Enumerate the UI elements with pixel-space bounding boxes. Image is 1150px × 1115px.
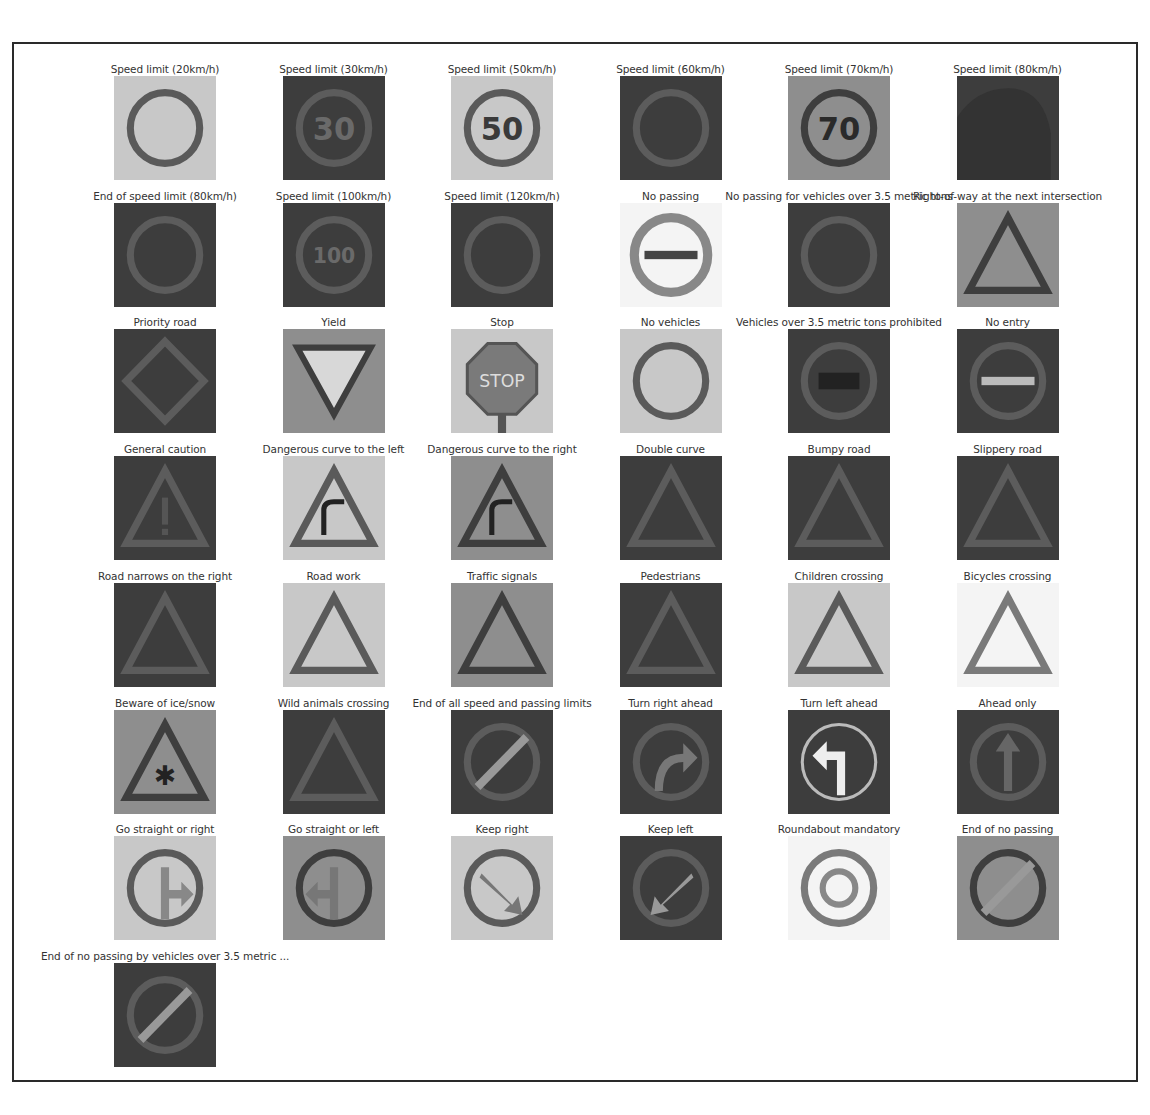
sign-sample-image: 50 (451, 76, 553, 180)
sign-sample-image (620, 329, 722, 433)
sign-sample-cell: Beware of ice/snow✱ (81, 697, 249, 824)
sign-class-caption: Right-of-way at the next intersection (884, 190, 1132, 202)
traffic-sign-icon (620, 710, 722, 814)
traffic-sign-icon: 100 (283, 203, 385, 307)
svg-text:100: 100 (312, 244, 355, 268)
sign-sample-image (283, 456, 385, 560)
sign-sample-cell: Dangerous curve to the right (418, 443, 586, 570)
traffic-sign-icon (283, 329, 385, 433)
sign-sample-cell: General caution (81, 443, 249, 570)
sign-sample-cell: Double curve (587, 443, 755, 570)
sign-sample-image (283, 710, 385, 814)
sign-sample-cell: End of speed limit (80km/h) (81, 190, 249, 317)
traffic-sign-icon (788, 203, 890, 307)
traffic-sign-icon (451, 456, 553, 560)
sign-sample-cell: Speed limit (70km/h)70 (755, 63, 923, 190)
traffic-sign-icon (283, 710, 385, 814)
sign-sample-cell: Speed limit (50km/h)50 (418, 63, 586, 190)
traffic-sign-icon (283, 836, 385, 940)
sign-sample-image: 100 (283, 203, 385, 307)
sign-sample-cell: Go straight or left (250, 823, 418, 950)
traffic-sign-icon (283, 456, 385, 560)
sign-sample-image (957, 583, 1059, 687)
traffic-sign-icon (620, 203, 722, 307)
sign-sample-image (957, 76, 1059, 180)
svg-text:STOP: STOP (479, 371, 525, 391)
svg-text:✱: ✱ (154, 759, 176, 790)
sign-sample-cell: Speed limit (60km/h) (587, 63, 755, 190)
sign-sample-cell: End of all speed and passing limits (418, 697, 586, 824)
traffic-sign-icon (451, 583, 553, 687)
sign-sample-cell: End of no passing by vehicles over 3.5 m… (81, 950, 249, 1077)
traffic-sign-icon (957, 329, 1059, 433)
sign-sample-image (451, 456, 553, 560)
traffic-sign-icon (957, 836, 1059, 940)
sign-sample-image: 70 (788, 76, 890, 180)
traffic-sign-icon (283, 583, 385, 687)
sign-sample-cell: Dangerous curve to the left (250, 443, 418, 570)
traffic-sign-icon (114, 76, 216, 180)
sign-sample-image: STOP (451, 329, 553, 433)
traffic-sign-icon (620, 76, 722, 180)
sign-sample-image (114, 963, 216, 1067)
sign-sample-cell: No passing for vehicles over 3.5 metric … (755, 190, 923, 317)
sign-sample-cell: Keep left (587, 823, 755, 950)
sign-sample-cell: Turn right ahead (587, 697, 755, 824)
sign-sample-cell: Wild animals crossing (250, 697, 418, 824)
sign-sample-image (620, 710, 722, 814)
sign-sample-image (283, 836, 385, 940)
sign-class-caption: Ahead only (884, 697, 1132, 709)
sign-sample-image (788, 203, 890, 307)
traffic-sign-icon (114, 963, 216, 1067)
sign-sample-cell: Speed limit (80km/h) (924, 63, 1092, 190)
svg-text:70: 70 (818, 111, 861, 147)
traffic-sign-icon (788, 583, 890, 687)
traffic-sign-icon (957, 76, 1059, 180)
sign-sample-image (620, 76, 722, 180)
sign-class-caption: End of no passing (884, 823, 1132, 835)
sign-sample-cell: End of no passing (924, 823, 1092, 950)
sign-sample-image (788, 329, 890, 433)
traffic-sign-icon: 30 (283, 76, 385, 180)
sign-sample-cell: No vehicles (587, 316, 755, 443)
sign-sample-cell: Speed limit (30km/h)30 (250, 63, 418, 190)
traffic-sign-icon (620, 836, 722, 940)
traffic-sign-icon (957, 203, 1059, 307)
sign-sample-image (114, 836, 216, 940)
sign-sample-cell: StopSTOP (418, 316, 586, 443)
sign-class-caption: End of no passing by vehicles over 3.5 m… (41, 950, 289, 962)
sign-sample-cell: Speed limit (120km/h) (418, 190, 586, 317)
traffic-sign-icon (788, 836, 890, 940)
sign-sample-cell: Right-of-way at the next intersection (924, 190, 1092, 317)
sign-sample-image (620, 583, 722, 687)
traffic-sign-icon (114, 203, 216, 307)
sign-sample-image (957, 456, 1059, 560)
traffic-sign-icon (451, 710, 553, 814)
traffic-sign-icon (114, 456, 216, 560)
traffic-sign-icon: 50 (451, 76, 553, 180)
traffic-sign-icon (114, 329, 216, 433)
sign-sample-image (283, 583, 385, 687)
traffic-sign-icon (451, 203, 553, 307)
sign-sample-cell: Ahead only (924, 697, 1092, 824)
sign-sample-image (451, 836, 553, 940)
traffic-sign-icon: 70 (788, 76, 890, 180)
sign-sample-image (114, 203, 216, 307)
sign-sample-image (451, 203, 553, 307)
sign-sample-image (620, 836, 722, 940)
sign-sample-image (114, 583, 216, 687)
traffic-sign-icon: ✱ (114, 710, 216, 814)
traffic-sign-icon (788, 329, 890, 433)
sign-sample-image (114, 456, 216, 560)
sign-sample-image (451, 583, 553, 687)
sign-sample-cell: Vehicles over 3.5 metric tons prohibited (755, 316, 923, 443)
sign-sample-cell: Road narrows on the right (81, 570, 249, 697)
sign-sample-image (114, 329, 216, 433)
sign-sample-image: 30 (283, 76, 385, 180)
sign-sample-image (957, 836, 1059, 940)
sign-class-caption: No entry (884, 316, 1132, 328)
sign-sample-image (788, 583, 890, 687)
sign-sample-image (957, 203, 1059, 307)
sign-class-caption: Slippery road (884, 443, 1132, 455)
sign-sample-cell: Speed limit (100km/h)100 (250, 190, 418, 317)
